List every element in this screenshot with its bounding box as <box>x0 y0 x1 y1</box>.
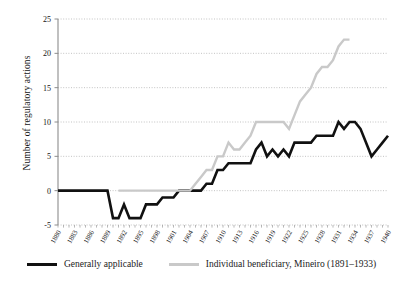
x-tick-label: 1937 <box>363 229 377 245</box>
x-tick-label: 1928 <box>313 229 327 245</box>
x-tick-label: 1919 <box>264 229 278 245</box>
y-tick-label: 15 <box>43 84 51 93</box>
line-chart: -505101520251880188318861889189218951898… <box>0 0 403 245</box>
legend-swatch-gray <box>169 263 199 266</box>
plot-area: Number of regulatory actions -5051015202… <box>0 0 403 245</box>
x-tick-label: 1910 <box>214 229 228 245</box>
y-tick-label: 25 <box>43 15 51 24</box>
x-tick-label: 1922 <box>280 229 294 245</box>
x-tick-label: 1889 <box>99 229 113 245</box>
x-tick-label: 1931 <box>330 229 344 245</box>
legend-label-individual-beneficiary: Individual beneficiary, Mineiro (1891–19… <box>206 260 376 270</box>
legend-item-individual-beneficiary: Individual beneficiary, Mineiro (1891–19… <box>169 260 376 270</box>
y-tick-label: 10 <box>43 118 51 127</box>
series-line-individual-beneficiary <box>119 40 350 191</box>
legend-label-generally-applicable: Generally applicable <box>64 260 143 270</box>
x-tick-label: 1904 <box>181 229 195 245</box>
x-tick-label: 1925 <box>297 229 311 245</box>
x-tick-label: 1907 <box>198 229 212 245</box>
chart-legend: Generally applicable Individual benefici… <box>0 248 403 281</box>
x-tick-label: 1916 <box>247 229 261 245</box>
x-tick-label: 1880 <box>49 229 63 245</box>
series-line-generally-applicable <box>58 122 388 218</box>
y-tick-label: 5 <box>47 152 51 161</box>
figure: Number of regulatory actions -5051015202… <box>0 0 403 281</box>
y-tick-label: 20 <box>43 49 51 58</box>
x-tick-label: 1901 <box>165 229 179 245</box>
x-tick-label: 1883 <box>66 229 80 245</box>
y-tick-label: 0 <box>47 187 51 196</box>
x-tick-label: 1886 <box>82 229 96 245</box>
x-tick-label: 1940 <box>379 229 393 245</box>
legend-item-generally-applicable: Generally applicable <box>27 260 143 270</box>
x-tick-label: 1934 <box>346 229 360 245</box>
x-tick-label: 1892 <box>115 229 129 245</box>
y-axis-title: Number of regulatory actions <box>22 23 32 203</box>
y-tick-label: -5 <box>44 221 51 230</box>
legend-swatch-black <box>27 263 57 266</box>
x-tick-label: 1895 <box>132 229 146 245</box>
x-tick-label: 1913 <box>231 229 245 245</box>
x-tick-label: 1898 <box>148 229 162 245</box>
